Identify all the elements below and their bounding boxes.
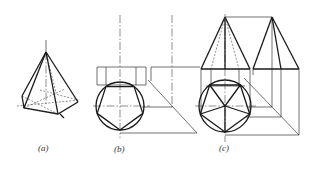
- top-view-edge: [225, 85, 240, 106]
- panel-c-three-views: (c): [195, 14, 299, 153]
- panel-a-pictorial-pyramid: (a): [17, 40, 80, 153]
- lateral-edge: [22, 52, 46, 96]
- panel-label-b: (b): [114, 144, 125, 154]
- lateral-edge: [24, 52, 46, 108]
- pyramid-projection-figure: (a) (b): [0, 0, 321, 172]
- side-base-outline: [151, 67, 200, 81]
- panel-label-c: (c): [219, 143, 229, 153]
- base-tick: [60, 114, 64, 118]
- miter-line: [244, 78, 299, 135]
- panel-label-a: (a): [38, 143, 49, 153]
- panel-b-base-projections: (b): [93, 15, 200, 154]
- top-view-edge: [210, 85, 225, 106]
- top-view-edge: [200, 106, 225, 114]
- side-lateral-edge: [253, 17, 272, 69]
- miter-line: [148, 80, 197, 133]
- top-view-edge: [225, 106, 250, 114]
- front-lateral-edge: [225, 17, 250, 69]
